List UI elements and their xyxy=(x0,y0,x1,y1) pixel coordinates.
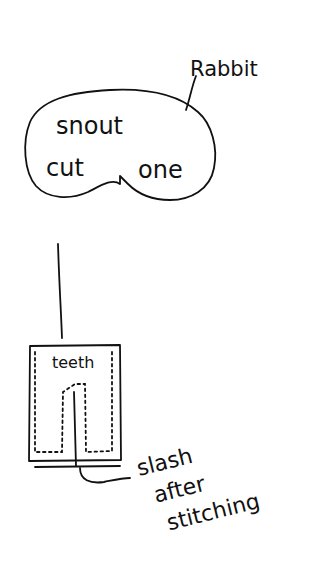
slash-line xyxy=(74,392,76,466)
rabbit-leader-line xyxy=(186,76,196,110)
cut-label: cut xyxy=(46,154,84,182)
rabbit-label: Rabbit xyxy=(190,57,258,81)
sewing-pattern-diagram: Rabbit snout cut one teeth slash after s… xyxy=(0,0,311,587)
grain-line xyxy=(58,244,62,338)
slash-leader-line xyxy=(80,468,130,482)
snout-label: snout xyxy=(56,112,123,140)
slash-callout-text: slash after stitching xyxy=(134,430,262,539)
one-label: one xyxy=(138,156,183,184)
teeth-bottom-line xyxy=(35,466,120,467)
teeth-label: teeth xyxy=(52,353,94,372)
